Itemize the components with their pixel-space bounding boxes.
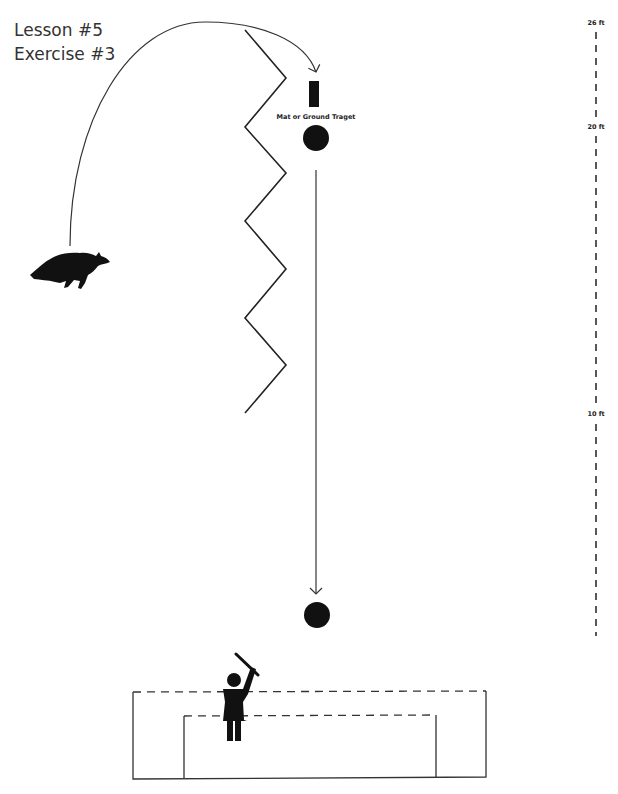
handler-circle [304, 602, 330, 628]
handler-icon [223, 654, 258, 741]
dog-icon [30, 252, 110, 289]
exercise-diagram: Lesson #5 Exercise #3 Mat or Ground Trag… [0, 0, 618, 794]
lesson-title: Lesson #5 [14, 20, 103, 40]
scale-label-20ft: 20 ft [587, 123, 604, 131]
stick-icon [236, 654, 258, 675]
distance-scale: 26 ft 20 ft 10 ft [587, 19, 604, 636]
mat-target [309, 81, 319, 107]
target-circle [303, 125, 329, 151]
scale-label-26ft: 26 ft [587, 19, 604, 27]
mat-target-label: Mat or Ground Traget [277, 113, 356, 121]
scale-label-10ft: 10 ft [587, 410, 604, 418]
exercise-title: Exercise #3 [14, 44, 115, 64]
handler-enclosure [133, 691, 486, 779]
zigzag-barrier [245, 30, 286, 413]
